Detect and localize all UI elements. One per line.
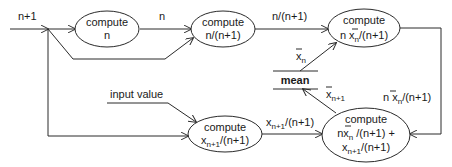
node-compute-ratio: compute n/(n+1) — [191, 11, 255, 47]
edge-n-plus-1: n+1 — [10, 10, 75, 29]
label-ratio: n/(n+1) — [272, 10, 307, 22]
edge-n: n — [140, 10, 191, 29]
edge-input-value: input value — [107, 88, 196, 122]
svg-text:compute: compute — [86, 16, 128, 28]
node-mean-store: mean — [273, 71, 318, 89]
svg-text:compute: compute — [202, 16, 244, 28]
node-compute-n: compute n — [75, 11, 139, 47]
label-scaled-mean: n xn/(n+1) — [383, 91, 431, 106]
edge-xbar-n: xn — [296, 43, 336, 71]
svg-text:compute: compute — [343, 14, 385, 26]
running-mean-diagram: n+1 n n/(n+1) xn n xn/(n+1) input value … — [0, 0, 452, 167]
label-xbar-n-plus-1: xn+1 — [326, 88, 346, 103]
label-n-plus-1: n+1 — [18, 10, 37, 22]
edge-xbar-n-plus-1: xn+1 — [303, 87, 346, 113]
edge-ratio: n/(n+1) — [255, 10, 328, 29]
node-compute-scaled-mean: compute n xn/(n+1) — [328, 9, 400, 47]
node-compute-scaled-input: compute xn+1/(n+1) — [188, 116, 262, 152]
edge-scaled-input: xn+1/(n+1) — [262, 116, 322, 134]
svg-text:n: n — [104, 29, 110, 41]
label-input-value: input value — [110, 88, 163, 100]
label-n: n — [159, 10, 165, 22]
node-compute-new-mean: compute nxn /(n+1) + xn+1/(n+1) — [322, 108, 410, 162]
svg-text:compute: compute — [204, 121, 246, 133]
svg-text:mean: mean — [281, 74, 310, 86]
svg-text:compute: compute — [345, 113, 387, 125]
label-xbar-n: xn — [296, 50, 306, 65]
svg-text:n/(n+1): n/(n+1) — [205, 29, 240, 41]
label-scaled-input: xn+1/(n+1) — [266, 116, 314, 131]
